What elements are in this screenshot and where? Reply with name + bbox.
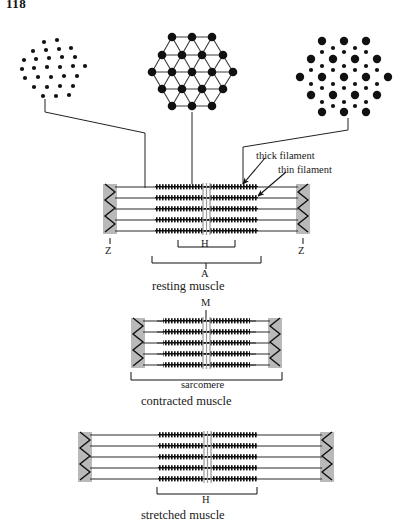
right-cross-section-dots: [296, 37, 392, 116]
caption-contracted-muscle: contracted muscle: [141, 394, 232, 409]
left-cross-section-dots: [20, 38, 87, 98]
z-disc-left: [103, 184, 117, 234]
z-disc-right-stretched: [320, 432, 334, 482]
z-disc-left-stretched: [78, 432, 92, 482]
leader-left: [45, 99, 145, 188]
figure-graphics: [0, 0, 407, 530]
z-disc-right: [296, 184, 310, 234]
z-label-left-resting: Z: [105, 245, 111, 256]
thick-filament-label: thick filament: [256, 150, 315, 161]
panel-contracted-muscle: [131, 310, 282, 380]
z-disc-left-contracted: [131, 318, 145, 368]
thin-filament-label: thin filament: [278, 164, 332, 175]
h-label-stretched: H: [202, 494, 210, 505]
sarcomere-label: sarcomere: [181, 379, 224, 390]
a-label-resting: A: [201, 268, 209, 279]
thick-filament-arrow: [243, 158, 265, 184]
h-label-resting: H: [201, 238, 209, 249]
panel-stretched-muscle: [78, 431, 334, 494]
h-bracket-stretched: [157, 487, 257, 494]
caption-stretched-muscle: stretched muscle: [141, 508, 225, 523]
z-disc-right-contracted: [268, 318, 282, 368]
thin-filament-arrow: [258, 172, 286, 196]
middle-cross-section-lattice: [148, 33, 238, 111]
m-label-contracted: M: [201, 297, 210, 308]
caption-resting-muscle: resting muscle: [152, 279, 225, 294]
z-label-right-resting: Z: [298, 245, 304, 256]
sarcomere-figure: 118: [0, 0, 407, 530]
panel-resting-muscle: [103, 183, 310, 269]
